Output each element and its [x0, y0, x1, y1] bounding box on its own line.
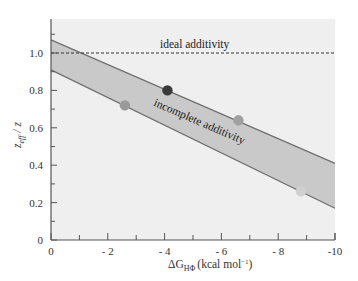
y-tick-label: 0.8	[29, 84, 43, 96]
y-tick-label: 1.0	[29, 47, 43, 59]
y-tick-label: 0	[38, 234, 44, 246]
chart: ideal additivity incomplete additivity 0…	[0, 0, 358, 281]
x-tick-label: 0	[48, 245, 54, 257]
y-tick-label: 0.6	[29, 122, 43, 134]
x-tick-label: - 4	[159, 245, 171, 257]
x-tick-label: - 6	[215, 245, 227, 257]
y-tick-label: 0.4	[29, 159, 43, 171]
x-tick-label: - 2	[102, 245, 114, 257]
data-point	[162, 85, 172, 95]
x-axis-title: ΔGHΦ(kcal mol−1)	[168, 258, 253, 273]
data-point	[120, 100, 130, 110]
y-axis-title: zeff / z	[11, 122, 26, 149]
y-tick-label: 0.2	[29, 197, 43, 209]
x-tick-label: - 8	[272, 245, 284, 257]
x-tick-label: -10	[328, 245, 343, 257]
data-point	[233, 115, 243, 125]
data-point	[296, 186, 306, 196]
ideal-additivity-label: ideal additivity	[160, 38, 230, 51]
